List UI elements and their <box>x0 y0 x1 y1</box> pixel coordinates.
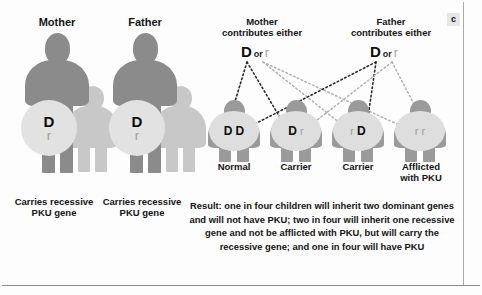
child-label-2: Carrier <box>266 161 326 172</box>
parent-title-father: Father <box>104 16 186 29</box>
mother-caption: Carries recessive PKU gene <box>6 196 102 218</box>
mother-dominant-allele: D <box>44 114 55 129</box>
result-paragraph: Result: one in four children will inheri… <box>186 199 458 254</box>
father-gamete-dominant: D <box>370 43 381 60</box>
child-allele-circle-1: D D <box>209 111 259 151</box>
child-1-allele-right: D <box>236 125 245 137</box>
vertical-divider-rule <box>463 2 464 285</box>
father-recessive-allele: r <box>135 129 139 143</box>
child-2-allele-left: D <box>288 125 297 137</box>
child-label-4: Afflicted with PKU <box>388 161 454 183</box>
child-label-1: Normal <box>204 161 264 172</box>
child-4-allele-left: r <box>415 126 419 137</box>
child-allele-circle-3: r D <box>333 111 383 151</box>
child-allele-circle-2: D r <box>271 111 321 151</box>
mother-gamete-conjunction: or <box>254 49 263 59</box>
horizontal-divider-rule <box>2 285 480 286</box>
father-contributes-label: Father contributes either <box>337 16 445 38</box>
mother-gamete-alleles: Dorr <box>241 44 269 60</box>
father-gamete-alleles: Dorr <box>370 44 398 60</box>
mother-gamete-dominant: D <box>241 43 252 60</box>
father-caption: Carries recessive PKU gene <box>94 196 190 218</box>
child-3-allele-right: D <box>357 125 366 137</box>
father-gamete-conjunction: or <box>383 49 392 59</box>
mother-allele-circle: D r <box>21 100 77 156</box>
child-allele-circle-4: r r <box>395 111 445 151</box>
mother-contributes-label: Mother contributes either <box>208 16 316 38</box>
child-2-allele-right: r <box>300 126 304 137</box>
panel-letter-label: c <box>447 13 460 26</box>
father-gamete-recessive: r <box>394 45 398 60</box>
mother-recessive-allele: r <box>47 129 51 143</box>
child-label-3: Carrier <box>328 161 388 172</box>
genetics-inheritance-figure: c Mother Father D r D r <box>0 0 482 295</box>
child-3-allele-left: r <box>350 126 354 137</box>
father-dominant-allele: D <box>132 114 143 129</box>
parent-title-mother: Mother <box>16 16 98 29</box>
child-4-allele-right: r <box>422 126 426 137</box>
father-allele-circle: D r <box>109 100 165 156</box>
mother-gamete-recessive: r <box>265 45 269 60</box>
child-1-allele-left: D <box>224 125 233 137</box>
